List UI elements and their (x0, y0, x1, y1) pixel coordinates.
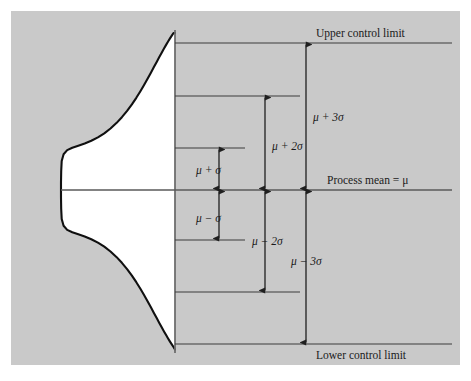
normal-curve-group (61, 33, 175, 350)
mu-plus-2sigma-label: μ + 2σ (272, 141, 303, 153)
mu-plus-3sigma-label: μ + 3σ (313, 112, 344, 124)
normal-curve-fill (61, 33, 175, 350)
lower-control-limit-label: Lower control limit (316, 350, 406, 362)
upper-control-limit-label: Upper control limit (316, 28, 405, 40)
mu-minus-1sigma-label: μ − σ (196, 213, 221, 225)
chart-canvas (0, 0, 471, 381)
mu-plus-1sigma-label: μ + σ (196, 165, 221, 177)
mu-minus-3sigma-label: μ − 3σ (291, 256, 322, 268)
measure-arrows (219, 45, 306, 343)
mu-minus-2sigma-label: μ − 2σ (252, 236, 283, 248)
process-mean-label: Process mean = μ (327, 175, 408, 187)
control-chart-figure: Upper control limit Lower control limit … (0, 0, 471, 381)
